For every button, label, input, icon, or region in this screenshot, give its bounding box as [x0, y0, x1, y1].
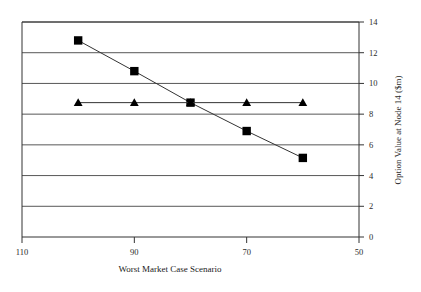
- x-tick-label-90: 90: [130, 247, 139, 257]
- y-tick-label-14: 14: [369, 17, 378, 27]
- data-point-square-4[interactable]: [299, 154, 307, 162]
- x-tick-label-50: 50: [355, 247, 364, 257]
- x-tick-label-110: 110: [16, 247, 28, 257]
- y-tick-label-8: 8: [369, 109, 373, 119]
- x-tick-label-70: 70: [242, 247, 251, 257]
- data-point-square-1[interactable]: [130, 67, 138, 75]
- y-tick-label-4: 4: [369, 171, 374, 181]
- y-axis-title: Option Value at Node 14 ($m): [393, 75, 403, 184]
- y-tick-label-10: 10: [369, 78, 378, 88]
- data-point-square-0[interactable]: [74, 36, 82, 44]
- x-axis-title: Worst Market Case Scenario: [0, 264, 340, 274]
- y-tick-label-6: 6: [369, 140, 373, 150]
- y-tick-label-0: 0: [369, 232, 373, 242]
- chart-container: 02468101214110907050Option Value at Node…: [0, 0, 421, 292]
- scatter-line-chart: 02468101214110907050Option Value at Node…: [0, 0, 421, 292]
- data-point-square-3[interactable]: [242, 127, 250, 135]
- y-tick-label-12: 12: [369, 48, 378, 58]
- y-tick-label-2: 2: [369, 201, 373, 211]
